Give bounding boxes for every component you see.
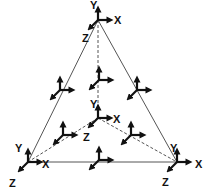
labels-bottom-right-vertex: Y X Z: [162, 142, 203, 188]
frame-top-vertex: [90, 9, 110, 28]
label-bottom-left-y: Y: [15, 142, 23, 154]
labels-bottom-left-vertex: Y X Z: [9, 142, 50, 189]
label-bottom-right-x: X: [195, 158, 203, 170]
label-center-z: Z: [83, 131, 90, 143]
label-bottom-left-x: X: [42, 158, 50, 170]
label-center-y: Y: [90, 98, 98, 110]
label-top-x: X: [114, 14, 122, 26]
label-top-y: Y: [90, 0, 98, 11]
label-bottom-right-y: Y: [170, 142, 178, 154]
dashed-edges: [28, 20, 177, 162]
label-bottom-right-z: Z: [162, 176, 169, 188]
solid-edges: [28, 20, 177, 162]
labels-center-vertex: Y X Z: [83, 98, 121, 143]
frame-lower-left-inner: [55, 124, 75, 143]
label-top-z: Z: [82, 32, 89, 44]
frame-bottom-edge-mid: [91, 149, 111, 168]
frame-left-edge-mid: [52, 79, 72, 98]
label-center-x: X: [113, 113, 121, 125]
label-bottom-left-z: Z: [9, 177, 16, 189]
labels-top-vertex: Y X Z: [82, 0, 122, 44]
frame-top-center-edge-mid: [91, 69, 111, 88]
tetrahedron-diagram: Y X Z Y X Z Y X Z Y X Z: [0, 0, 208, 192]
